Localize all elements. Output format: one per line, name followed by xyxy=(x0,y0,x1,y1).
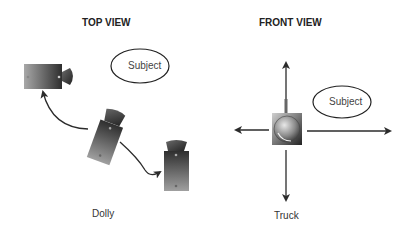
dolly-path-arrow-2 xyxy=(120,142,160,175)
top-view-diagram xyxy=(24,49,189,191)
top-view-title: TOP VIEW xyxy=(82,17,131,28)
camera-icon-position-2 xyxy=(87,106,128,165)
front-view-title: FRONT VIEW xyxy=(259,17,322,28)
front-view-diagram xyxy=(236,63,390,200)
dolly-path-arrow-1 xyxy=(43,92,88,129)
top-view-caption: Dolly xyxy=(92,208,114,219)
diagram-canvas xyxy=(0,0,406,230)
top-view-subject-label: Subject xyxy=(128,60,161,71)
camera-icon-position-3 xyxy=(164,140,189,191)
front-view-subject-label: Subject xyxy=(329,96,362,107)
camera-icon-position-1 xyxy=(24,64,73,89)
front-view-caption: Truck xyxy=(274,210,299,221)
camera-front-icon xyxy=(272,113,302,145)
